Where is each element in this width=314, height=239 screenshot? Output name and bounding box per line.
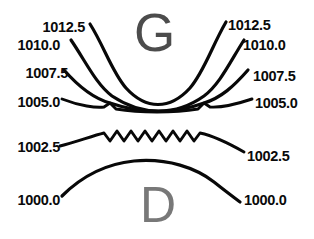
contour-label-right-1012-5: 1012.5 xyxy=(228,18,271,33)
low-pressure-center-label: D xyxy=(140,180,176,230)
contour-label-left-1000-0: 1000.0 xyxy=(0,193,60,208)
contour-path-1002-5-zigzag xyxy=(60,131,244,152)
contour-label-right-1002-5: 1002.5 xyxy=(247,149,290,164)
pressure-contour-figure: G D 1012.5 1010.0 1007.5 1005.0 1002.5 1… xyxy=(0,0,314,239)
contour-label-right-1000-0: 1000.0 xyxy=(244,193,287,208)
contour-label-left-1007-5: 1007.5 xyxy=(0,66,68,81)
high-pressure-center-label: G xyxy=(134,6,175,59)
contour-label-right-1007-5: 1007.5 xyxy=(253,69,296,84)
contour-label-left-1010-0: 1010.0 xyxy=(0,38,60,53)
contour-label-right-1005-0: 1005.0 xyxy=(255,96,298,111)
contour-label-right-1010-0: 1010.0 xyxy=(243,38,286,53)
contour-label-left-1012-5: 1012.5 xyxy=(0,20,85,35)
contour-label-left-1002-5: 1002.5 xyxy=(0,140,60,155)
contour-label-left-1005-0: 1005.0 xyxy=(0,95,60,110)
